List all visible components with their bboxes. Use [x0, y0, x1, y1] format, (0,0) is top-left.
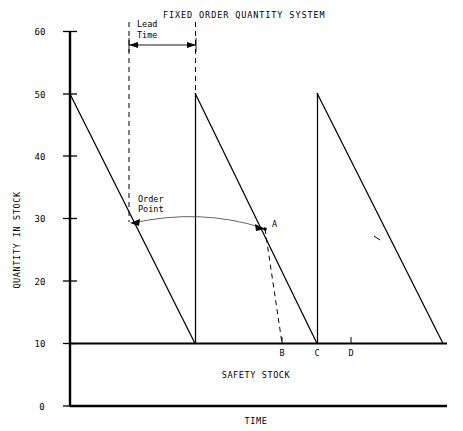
lead-time-label-line1: Lead	[137, 19, 157, 29]
point-c-label: C	[314, 348, 319, 358]
x-axis-title: TIME	[245, 416, 268, 426]
order-point-to-a-arc	[130, 217, 265, 231]
y-tick-label-50: 50	[35, 90, 46, 100]
demand-line-cycle-3	[317, 93, 443, 344]
lead-time-arrow	[129, 38, 196, 52]
point-b-label: B	[279, 348, 284, 358]
lead-time-label-line2: Time	[137, 30, 157, 40]
order-point-label-line1: Order	[138, 194, 164, 204]
order-point-label-line2: Point	[138, 204, 164, 214]
y-tick-label-20: 20	[35, 277, 46, 287]
fixed-order-quantity-chart: FIXED ORDER QUANTITY SYSTEM 60 50 40 30 …	[0, 0, 463, 431]
point-d-label: D	[348, 348, 353, 358]
y-axis-title: QUANTITY IN STOCK	[12, 191, 22, 288]
demand-line-marker	[374, 236, 380, 240]
demand-line-cycle-2	[195, 93, 317, 344]
y-tick-label-60: 60	[35, 27, 46, 37]
y-tick-label-40: 40	[35, 152, 46, 162]
safety-stock-caption: SAFETY STOCK	[222, 370, 291, 380]
chart-title: FIXED ORDER QUANTITY SYSTEM	[163, 10, 325, 20]
y-tick-label-10: 10	[35, 339, 46, 349]
point-a-label: A	[272, 219, 277, 229]
demand-line-cycle-1	[70, 94, 195, 344]
y-tick-label-0: 0	[39, 402, 44, 412]
point-a-to-b-dashed-line	[265, 229, 282, 343]
y-tick-label-30: 30	[35, 214, 46, 224]
